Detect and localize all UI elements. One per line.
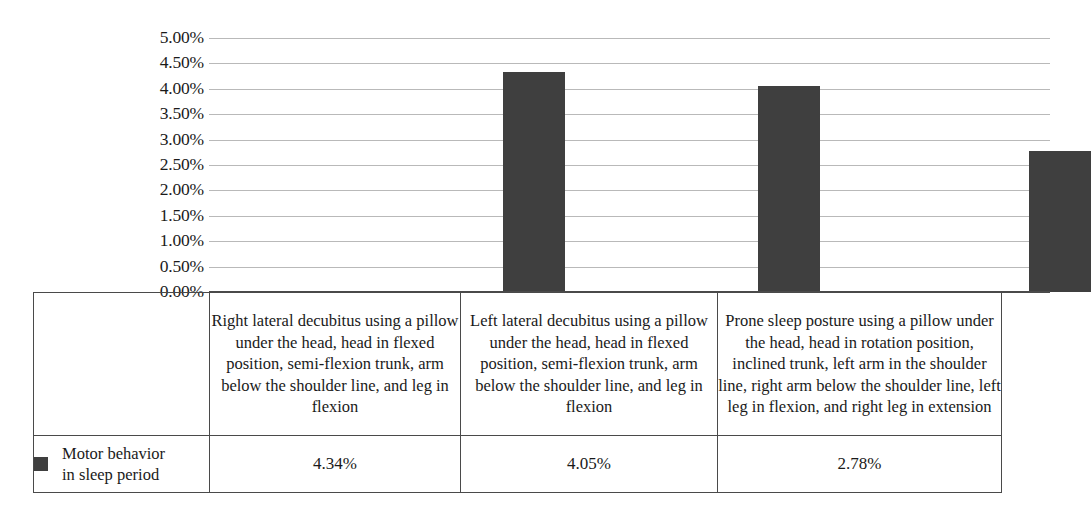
gridline (209, 216, 1050, 217)
y-axis-tick-label: 0.50% (120, 258, 204, 276)
gridline (209, 165, 1050, 166)
legend-label: Motor behavior in sleep period (62, 443, 165, 485)
bar-2 (758, 86, 820, 292)
y-axis-tick-label: 2.00% (120, 181, 204, 199)
y-axis-tick-label: 2.50% (120, 156, 204, 174)
value-cell-3: 2.78% (718, 436, 1002, 493)
gridline (209, 89, 1050, 90)
legend-label-line-1: Motor behavior (62, 444, 165, 463)
y-axis: 0.00%0.50%1.00%1.50%2.00%2.50%3.00%3.50%… (120, 38, 204, 292)
y-axis-tick-label: 4.50% (120, 54, 204, 72)
bar-1 (503, 72, 565, 292)
gridline (209, 241, 1050, 242)
gridline (209, 63, 1050, 64)
y-axis-tick-label: 5.00% (120, 29, 204, 47)
gridline (209, 140, 1050, 141)
category-cell-2: Left lateral decubitus using a pillow un… (461, 293, 718, 436)
gridline (209, 114, 1050, 115)
category-row-spacer (34, 293, 210, 436)
bar-3 (1029, 151, 1091, 292)
gridline (209, 190, 1050, 191)
chart-data-table: Right lateral decubitus using a pillow u… (33, 292, 1002, 493)
y-axis-tick-label: 3.00% (120, 131, 204, 149)
category-cell-1: Right lateral decubitus using a pillow u… (210, 293, 461, 436)
y-axis-tick-label: 4.00% (120, 80, 204, 98)
y-axis-tick-label: 1.50% (120, 207, 204, 225)
value-cell-1: 4.34% (210, 436, 461, 493)
legend-entry: Motor behavior in sleep period (34, 436, 210, 493)
value-cell-2: 4.05% (461, 436, 718, 493)
category-cell-3: Prone sleep posture using a pillow under… (718, 293, 1002, 436)
legend-label-line-2: in sleep period (62, 465, 159, 484)
gridline (209, 267, 1050, 268)
legend-swatch-icon (34, 457, 48, 471)
table-row-values: Motor behavior in sleep period 4.34% 4.0… (34, 436, 1002, 493)
gridline (209, 38, 1050, 39)
table-row-categories: Right lateral decubitus using a pillow u… (34, 293, 1002, 436)
y-axis-tick-label: 3.50% (120, 105, 204, 123)
plot-area (209, 38, 1050, 292)
y-axis-tick-label: 1.00% (120, 232, 204, 250)
